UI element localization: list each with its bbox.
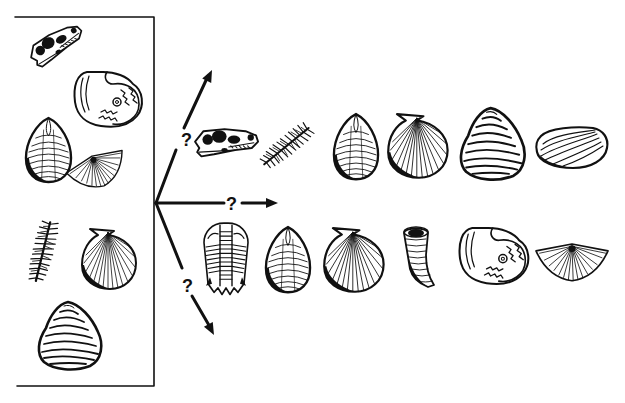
- scallop-fossil-icon: [82, 229, 136, 289]
- brachiopod-fan-fossil-icon: [536, 244, 608, 281]
- trilobite-fossil-icon: [204, 223, 248, 294]
- crinoid-fossil-icon: [28, 220, 59, 283]
- scallop-fossil-icon: [388, 114, 447, 178]
- upper-row-fossils: [195, 108, 607, 180]
- down-branch-question-mark: ?: [182, 276, 193, 296]
- up-branch-question-mark: ?: [181, 130, 192, 150]
- branch-arrows: ? ? ?: [156, 68, 278, 338]
- oval-shell-fossil-icon: [334, 114, 378, 179]
- lower-row-fossils: [204, 223, 608, 294]
- clam-fossil-icon: [536, 127, 607, 168]
- oval-shell-fossil-icon: [266, 227, 310, 292]
- ammonite-fossil-icon: [75, 72, 142, 127]
- horn-coral-fossil-icon: [404, 227, 434, 287]
- oyster-fossil-icon: [461, 108, 525, 180]
- oyster-fossil-icon: [39, 302, 101, 369]
- ammonite-fossil-icon: [460, 228, 529, 284]
- crinoid-fossil-icon: [259, 119, 315, 175]
- fossil-diagram: ? ? ?: [0, 0, 625, 403]
- source-box-fossils: [26, 21, 142, 370]
- middle-branch-question-mark: ?: [226, 194, 237, 214]
- skull-fossil-icon: [195, 129, 258, 156]
- scallop-fossil-icon: [324, 228, 383, 292]
- brachiopod-fan-fossil-icon: [64, 145, 132, 197]
- oval-shell-fossil-icon: [26, 118, 71, 182]
- skull-fossil-icon: [26, 21, 88, 70]
